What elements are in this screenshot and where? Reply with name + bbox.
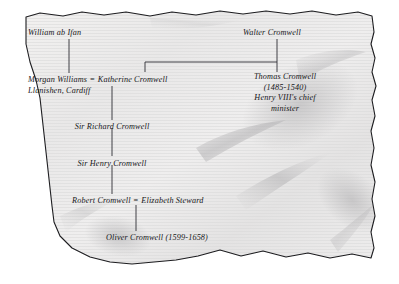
node-oliver-cromwell: Oliver Cromwell (1599-1658) [106, 233, 208, 244]
spouse-right-label: Elizabeth Steward [141, 196, 203, 205]
node-label: Oliver Cromwell (1599-1658) [106, 233, 208, 242]
node-title-line-1: Henry VIII's chief [254, 93, 316, 104]
node-thomas-cromwell: Thomas Cromwell (1485-1540) Henry VIII's… [254, 72, 316, 114]
node-label: Walter Cromwell [243, 28, 301, 37]
marriage-morgan-katherine: Morgan Williams=Katherine Cromwell Llani… [28, 75, 167, 96]
family-tree-image: William ab Ifan Walter Cromwell Morgan W… [0, 0, 399, 284]
marriage-robert-elizabeth: Robert Cromwell=Elizabeth Steward [72, 196, 203, 207]
node-dates: (1485-1540) [254, 83, 316, 94]
spouse-left-label: Morgan Williams [28, 75, 87, 84]
node-label: Sir Richard Cromwell [75, 122, 150, 131]
marriage-equals-sign: = [131, 196, 142, 207]
tree-labels-layer: William ab Ifan Walter Cromwell Morgan W… [0, 0, 399, 284]
node-label: William ab Ifan [28, 28, 81, 37]
spouse-left-label: Robert Cromwell [72, 196, 131, 205]
node-sir-henry-cromwell: Sir Henry Cromwell [78, 159, 147, 170]
marriage-sub-label: Llanishen, Cardiff [28, 86, 167, 97]
node-title-line-2: minister [254, 104, 316, 115]
node-william-ab-ifan: William ab Ifan [28, 28, 81, 39]
node-sir-richard-cromwell: Sir Richard Cromwell [75, 122, 150, 133]
marriage-equals-sign: = [87, 75, 98, 86]
node-walter-cromwell: Walter Cromwell [243, 28, 301, 39]
node-label: Sir Henry Cromwell [78, 159, 147, 168]
node-label: Thomas Cromwell [254, 72, 316, 83]
spouse-right-label: Katherine Cromwell [98, 75, 168, 84]
